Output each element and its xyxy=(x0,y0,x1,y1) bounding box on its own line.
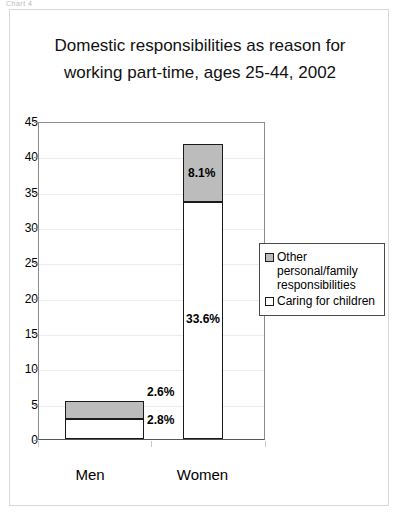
x-tick-mark xyxy=(151,441,152,447)
chart-title-line-1: Domestic responsibilities as reason for xyxy=(54,36,345,55)
gridline xyxy=(39,158,264,159)
legend-item-other[interactable]: Other personal/family responsibilities xyxy=(265,250,379,292)
gridline xyxy=(39,229,264,230)
legend-item-caring[interactable]: Caring for children xyxy=(265,294,379,308)
x-tick-label-women: Women xyxy=(165,466,240,483)
legend[interactable]: Other personal/family responsibilities C… xyxy=(259,243,385,316)
y-axis: 45 40 35 30 25 20 15 10 5 0 xyxy=(4,122,38,440)
legend-swatch-icon xyxy=(265,297,274,306)
chart-title-line-2: working part-time, ages 25-44, 2002 xyxy=(64,63,336,82)
data-label-women-other: 8.1% xyxy=(188,166,215,180)
x-tick-mark xyxy=(265,441,266,447)
data-label-men-other: 2.6% xyxy=(147,385,174,399)
data-label-men-caring: 2.8% xyxy=(147,413,174,427)
x-tick-mark xyxy=(38,441,39,447)
gridline xyxy=(39,335,264,336)
data-label-women-caring: 33.6% xyxy=(186,312,220,326)
chart-screenshot: Chart 4 Domestic responsibilities as rea… xyxy=(0,0,398,515)
bar-men[interactable] xyxy=(65,401,144,439)
x-tick-label-men: Men xyxy=(60,466,120,483)
chart-title: Domestic responsibilities as reason for … xyxy=(30,32,370,86)
gridline xyxy=(39,370,264,371)
legend-swatch-icon xyxy=(265,253,274,262)
bar-segment-men-caring[interactable] xyxy=(65,419,144,439)
plot-area: 2.8% 2.6% 33.6% 8.1% xyxy=(38,122,265,440)
bar-segment-men-other[interactable] xyxy=(65,401,144,419)
gridline xyxy=(39,300,264,301)
gridline xyxy=(39,264,264,265)
cropped-header-text: Chart 4 xyxy=(6,0,66,7)
legend-label: Caring for children xyxy=(277,294,375,308)
gridline xyxy=(39,194,264,195)
bar-women[interactable] xyxy=(183,144,223,439)
legend-label: Other personal/family responsibilities xyxy=(277,250,379,292)
